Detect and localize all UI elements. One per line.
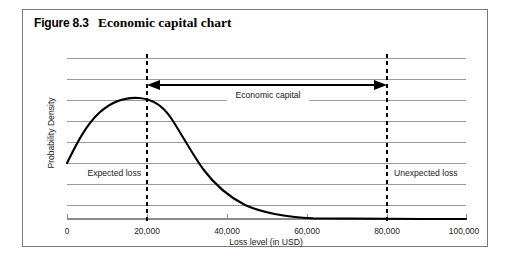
- economic-capital-annotation: Economic capital: [227, 88, 309, 101]
- gridlines: [67, 58, 466, 205]
- x-tick-label-40000: 40,000: [214, 226, 240, 236]
- x-tick-label-60000: 60,000: [294, 226, 320, 236]
- figure-number: Figure 8.3: [34, 16, 89, 30]
- x-tick-label-20000: 20,000: [134, 226, 160, 236]
- economic-capital-label: Economic capital: [236, 90, 301, 100]
- expected-loss-annotation: Expected loss: [83, 166, 145, 179]
- expected-loss-label: Expected loss: [87, 168, 141, 178]
- unexpected-loss-annotation: Unexpected loss: [391, 166, 465, 179]
- figure-card: Figure 8.3 Economic capital chart Probab…: [22, 9, 488, 247]
- chart-plot-svg: Economic capital Expected loss Unexpecte…: [23, 40, 489, 247]
- figure-header: Figure 8.3 Economic capital chart: [23, 10, 487, 40]
- x-tick-label-80000: 80,000: [374, 226, 400, 236]
- figure-title: Economic capital chart: [98, 15, 231, 31]
- x-tick-labels: 0 20,000 40,000 60,000 80,000 100,000: [65, 226, 480, 236]
- x-axis-title: Loss level (in USD): [229, 237, 303, 247]
- x-tick-label-0: 0: [65, 226, 70, 236]
- unexpected-loss-label: Unexpected loss: [394, 168, 458, 178]
- density-curve-group: [67, 98, 466, 219]
- x-tick-label-100000: 100,000: [449, 226, 480, 236]
- economic-capital-chart: Probability Density: [23, 40, 489, 247]
